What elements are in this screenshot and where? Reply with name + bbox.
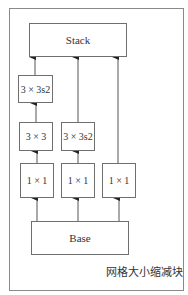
conv-3x3s2-node-col1: 3 × 3s2	[18, 75, 53, 103]
conv-3x3-node-col1: 3 × 3	[19, 122, 53, 151]
conv-1x1-node-col2: 1 × 1	[61, 163, 95, 198]
conv-1x1-node-col3: 1 × 1	[102, 163, 136, 198]
diagram-caption: 网格大小缩减块	[106, 263, 183, 279]
base-node: Base	[31, 221, 129, 255]
stack-node: Stack	[29, 23, 127, 57]
conv-1x1-node-col1: 1 × 1	[20, 163, 54, 198]
conv-3x3s2-node-col2: 3 × 3s2	[61, 122, 95, 151]
